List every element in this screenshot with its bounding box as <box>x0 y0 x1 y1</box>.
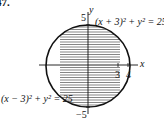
x-axis-label: x <box>140 59 144 69</box>
x-tick-4-label: 4 <box>126 70 131 80</box>
right-circle-equation: (x + 3)² + y² = 25 <box>95 17 164 27</box>
y-axis-label: y <box>89 5 93 15</box>
x-tick-3-label: 3 <box>115 70 120 80</box>
y-tick-neg5-label: −5 <box>76 110 87 120</box>
problem-number: 47. <box>0 0 10 8</box>
left-circle-equation: (x − 3)² + y² = 25 <box>1 94 73 104</box>
y-tick-5-label: 5 <box>81 13 86 23</box>
